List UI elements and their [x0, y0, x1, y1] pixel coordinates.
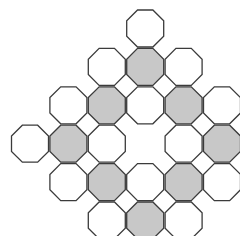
- octagon-r1-c4: [165, 48, 202, 85]
- octagon-r3-c1: [50, 125, 87, 162]
- tiling-canvas: [0, 0, 240, 236]
- octagon-r5-c2: [88, 202, 125, 236]
- octagon-r1-c2: [88, 48, 125, 85]
- octagon-r5-c4: [165, 202, 202, 236]
- octagon-r3-c4: [165, 125, 202, 162]
- octagon-r4-c5: [204, 164, 241, 201]
- octagon-r2-c2: [88, 87, 125, 124]
- octagon-r4-c2: [88, 164, 125, 201]
- octagon-r2-c3: [127, 87, 164, 124]
- octagon-r5-c3: [127, 202, 164, 236]
- octagon-r3-c0: [12, 125, 49, 162]
- octagon-r4-c1: [50, 164, 87, 201]
- octagon-r4-c4: [165, 164, 202, 201]
- octagon-r0-c3: [127, 10, 164, 47]
- octagon-r1-c3: [127, 48, 164, 85]
- octagon-r2-c1: [50, 87, 87, 124]
- octagon-r2-c4: [165, 87, 202, 124]
- octagon-r3-c5: [204, 125, 241, 162]
- octagon-r2-c5: [204, 87, 241, 124]
- octagon-r3-c2: [88, 125, 125, 162]
- octagon-r4-c3: [127, 164, 164, 201]
- octagon-tiling-figure: [0, 0, 240, 236]
